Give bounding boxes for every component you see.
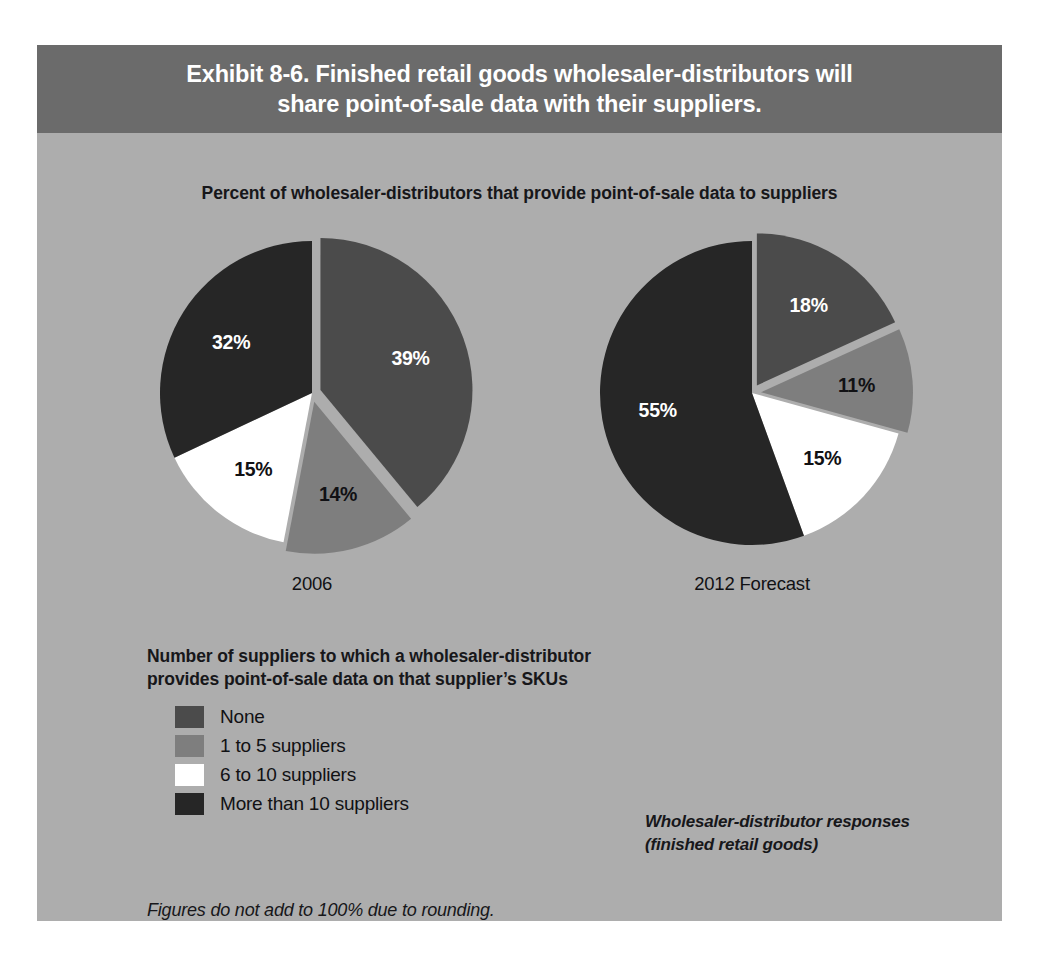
legend-item-label: 6 to 10 suppliers (220, 764, 356, 786)
legend-item-label: None (220, 706, 265, 728)
pie-chart-2006: 39%14%15%32% 2006 (102, 225, 522, 625)
legend-item: 1 to 5 suppliers (175, 731, 667, 760)
pie-slice-label: 39% (391, 347, 429, 369)
pie-slice-label: 55% (639, 399, 677, 421)
source-note: Wholesaler-distributor responses (finish… (645, 810, 910, 856)
pie-slice-label: 14% (319, 483, 357, 505)
legend-items: None1 to 5 suppliers6 to 10 suppliersMor… (175, 702, 667, 818)
charts-row: 39%14%15%32% 2006 18%11%15%55% 2012 Fore… (37, 225, 1002, 625)
pie-chart-2012-forecast: 18%11%15%55% 2012 Forecast (542, 225, 962, 625)
legend-swatch-icon (175, 706, 204, 728)
pie-slice-label: 11% (838, 374, 875, 396)
legend-swatch-icon (175, 735, 204, 757)
legend-item: 6 to 10 suppliers (175, 760, 667, 789)
exhibit-panel: Exhibit 8-6. Finished retail goods whole… (37, 45, 1002, 921)
exhibit-title-bar: Exhibit 8-6. Finished retail goods whole… (37, 45, 1002, 133)
exhibit-title-line-2: share point-of-sale data with their supp… (277, 89, 761, 119)
pie-chart-2006-caption: 2006 (102, 573, 522, 595)
chart-subtitle: Percent of wholesaler-distributors that … (37, 183, 1002, 204)
legend-item: None (175, 702, 667, 731)
pie-chart-2006-svg: 39%14%15%32% (142, 225, 482, 565)
pie-slice-label: 18% (790, 294, 828, 316)
source-note-line-2: (finished retail goods) (645, 833, 910, 856)
exhibit-title-line-1: Exhibit 8-6. Finished retail goods whole… (186, 59, 852, 89)
rounding-note: Figures do not add to 100% due to roundi… (147, 900, 495, 921)
legend-heading: Number of suppliers to which a wholesale… (147, 645, 667, 691)
legend-heading-line-2: provides point-of-sale data on that supp… (147, 668, 667, 691)
legend-swatch-icon (175, 793, 204, 815)
source-note-line-1: Wholesaler-distributor responses (645, 810, 910, 833)
legend-heading-line-1: Number of suppliers to which a wholesale… (147, 645, 667, 668)
legend-item: More than 10 suppliers (175, 789, 667, 818)
pie-chart-2012-forecast-caption: 2012 Forecast (542, 573, 962, 595)
pie-chart-2012-forecast-svg: 18%11%15%55% (582, 225, 922, 565)
legend: Number of suppliers to which a wholesale… (147, 645, 667, 818)
legend-item-label: 1 to 5 suppliers (220, 735, 346, 757)
legend-item-label: More than 10 suppliers (220, 793, 409, 815)
pie-slice-label: 15% (234, 458, 272, 480)
pie-slice-label: 32% (212, 331, 250, 353)
legend-swatch-icon (175, 764, 204, 786)
pie-slice-label: 15% (803, 447, 841, 469)
